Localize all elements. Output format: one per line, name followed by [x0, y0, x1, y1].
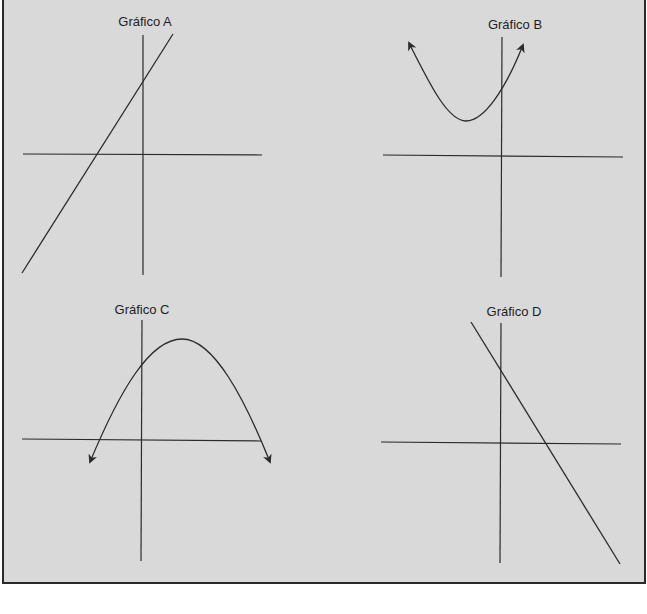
- panel-b-title: Gráfico B: [488, 17, 542, 32]
- panel-a-title: Gráfico A: [118, 14, 172, 29]
- panel-c: Gráfico C: [22, 302, 270, 561]
- graphs-canvas: Gráfico A Gráfico B Gráfico C Gráfico D: [0, 0, 647, 614]
- panel-b-y-axis: [501, 37, 502, 277]
- panel-b: Gráfico B: [383, 17, 623, 277]
- panel-d-title: Gráfico D: [487, 304, 542, 319]
- panel-b-x-axis: [383, 155, 623, 157]
- panel-c-parabola: [90, 339, 270, 462]
- panel-a: Gráfico A: [22, 14, 262, 275]
- panel-c-title: Gráfico C: [115, 302, 170, 317]
- panel-b-parabola: [409, 43, 523, 121]
- panel-a-x-axis: [23, 154, 262, 155]
- panel-d: Gráfico D: [381, 304, 621, 564]
